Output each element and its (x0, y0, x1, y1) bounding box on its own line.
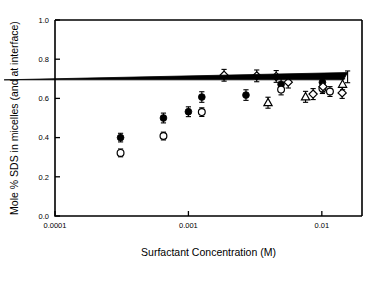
marker-open-triangle (338, 80, 346, 87)
data-point (185, 107, 192, 117)
series-filled-circle (117, 76, 326, 141)
y-tick-label: 1.0 (39, 16, 49, 25)
series-open-triangle (264, 79, 347, 108)
data-points-group (4, 69, 350, 156)
marker-open-triangle (301, 93, 309, 100)
y-tick-label: 0.6 (39, 94, 49, 103)
x-tick-label: 0.0001 (44, 221, 67, 230)
data-point (338, 79, 346, 90)
x-tick-label: 0.001 (179, 221, 198, 230)
x-tick-label: 0.01 (315, 221, 330, 230)
marker-open-circle (327, 88, 334, 95)
scatter-plot: 0.00.20.40.60.81.00.00010.0010.01Surfact… (0, 0, 378, 285)
marker-open-circle (160, 133, 167, 140)
marker-open-circle (117, 149, 124, 156)
data-point (243, 90, 250, 101)
marker-filled-circle (198, 94, 205, 101)
marker-filled-circle (243, 92, 250, 99)
marker-filled-circle (185, 108, 192, 115)
y-tick-label: 0.8 (39, 55, 49, 64)
data-point (117, 133, 124, 142)
data-point (160, 113, 167, 123)
y-tick-label: 0.0 (39, 212, 49, 221)
data-point (4, 71, 350, 83)
data-point (301, 91, 309, 102)
marker-open-circle (198, 109, 205, 116)
data-point (198, 108, 205, 117)
axis-labels-group: 0.00.20.40.60.81.00.00010.0010.01Surfact… (8, 16, 329, 258)
marker-open-circle (278, 86, 285, 93)
figure-container: 0.00.20.40.60.81.00.00010.0010.01Surfact… (0, 0, 378, 285)
data-point (309, 89, 317, 100)
data-point (264, 97, 272, 108)
axes-group (55, 20, 362, 216)
y-tick-label: 0.4 (39, 133, 49, 142)
data-point (198, 92, 205, 103)
series-filled-triangle (4, 71, 350, 83)
plot-frame (55, 20, 362, 216)
data-point (117, 149, 124, 157)
marker-filled-circle (117, 134, 124, 141)
y-tick-label: 0.2 (39, 173, 49, 182)
marker-open-diamond (309, 90, 317, 98)
data-point (327, 87, 334, 97)
series-open-circle (117, 84, 333, 157)
marker-filled-circle (160, 115, 167, 122)
data-point (160, 132, 167, 140)
x-axis-title: Surfactant Concentration (M) (141, 246, 276, 258)
y-axis-title: Mole % SDS in micelles (and at interface… (8, 21, 20, 215)
marker-open-triangle (264, 98, 272, 105)
